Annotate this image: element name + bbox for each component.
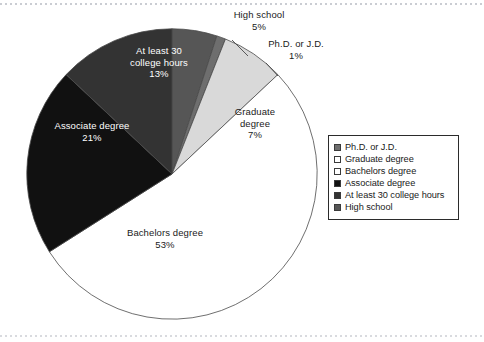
legend-item-label: Ph.D. or J.D. [345, 142, 397, 152]
legend-item-label: Associate degree [345, 178, 415, 188]
slice-label-percent: 53% [95, 239, 235, 251]
legend-swatch-icon [334, 204, 341, 211]
slice-label-percent: 1% [250, 50, 342, 62]
legend-swatch-icon [334, 156, 341, 163]
slice-label-percent: 13% [111, 68, 207, 80]
slice-label-line1: At least 30 [136, 45, 182, 56]
legend-item-label: At least 30 college hours [345, 190, 444, 200]
page-top-scan-edge [0, 3, 484, 5]
slice-label-associate-degree: Associate degree 21% [38, 120, 146, 143]
legend-item: At least 30 college hours [334, 190, 454, 202]
legend-swatch-icon [334, 180, 341, 187]
slice-label-line2: college hours [130, 57, 188, 68]
slice-label-bachelors-degree: Bachelors degree 53% [95, 227, 235, 250]
legend-item: High school [334, 202, 454, 214]
slice-label-high-school: High school 5% [218, 9, 300, 32]
legend-item-label: High school [345, 202, 392, 212]
slice-label-line1: Bachelors degree [127, 227, 203, 238]
slice-label-at-least-30-college-hours: At least 30 college hours 13% [111, 45, 207, 80]
legend-item: Ph.D. or J.D. [334, 142, 454, 154]
slice-label-line1: Graduate [235, 106, 275, 117]
legend-item: Graduate degree [334, 154, 454, 166]
legend-item-label: Bachelors degree [345, 166, 416, 176]
slice-label-graduate-degree: Graduate degree 7% [224, 106, 286, 141]
slice-label-line1: Associate degree [54, 120, 129, 131]
legend-swatch-icon [334, 192, 341, 199]
slice-label-line1: Ph.D. or J.D. [268, 38, 324, 49]
legend-swatch-icon [334, 144, 341, 151]
chart-legend: Ph.D. or J.D.Graduate degreeBachelors de… [328, 135, 459, 220]
legend-swatch-icon [334, 168, 341, 175]
slice-label-line1: High school [234, 9, 285, 20]
slice-label-phd-or-jd: Ph.D. or J.D. 1% [250, 38, 342, 61]
legend-item: Associate degree [334, 178, 454, 190]
page-canvas: At least 30 college hours 13% Associate … [0, 0, 484, 342]
slice-label-percent: 21% [38, 132, 146, 144]
slice-label-line2: degree [240, 118, 270, 129]
slice-label-percent: 5% [218, 21, 300, 33]
slice-label-percent: 7% [224, 129, 286, 141]
legend-item-label: Graduate degree [345, 154, 414, 164]
legend-item: Bachelors degree [334, 166, 454, 178]
page-bottom-scan-edge [0, 335, 484, 337]
